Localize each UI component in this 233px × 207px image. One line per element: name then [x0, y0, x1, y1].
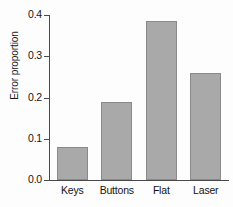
y-tick-label: 0.4 [28, 8, 42, 20]
y-tick-label: 0.1 [28, 132, 42, 144]
x-tick-label: Laser [166, 184, 233, 196]
y-tick-label: 0.3 [28, 49, 42, 61]
y-axis-tick-labels: 0.00.10.20.30.4 [14, 0, 42, 207]
bar-keys [57, 147, 88, 180]
bar-laser [190, 73, 221, 180]
y-axis-line [49, 15, 50, 181]
bar-flat [146, 21, 177, 180]
y-tick-label: 0.2 [28, 91, 42, 103]
bar-chart: Error proportion 0.00.10.20.30.4 KeysBut… [0, 0, 233, 207]
x-axis-line [44, 180, 229, 181]
bar-buttons [101, 102, 132, 180]
